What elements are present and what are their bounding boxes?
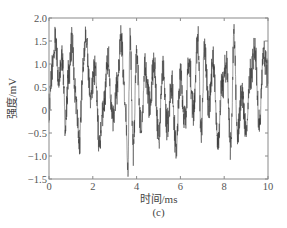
y-tick-label: 0.5 [34, 82, 47, 93]
y-tick-label: −0.5 [28, 128, 47, 139]
y-axis-title: 强度/mV [5, 78, 18, 120]
x-tick-labels: 0246810 [46, 181, 273, 192]
figure-caption: (c) [152, 206, 165, 219]
y-tick-label: 1.0 [34, 59, 47, 70]
y-tick-label: 0 [42, 105, 47, 116]
x-tick-label: 0 [46, 181, 51, 192]
x-tick-label: 2 [90, 181, 95, 192]
y-tick-label: −1.0 [28, 151, 47, 162]
y-tick-labels: −1.5−1.0−0.500.51.01.52.0 [28, 13, 47, 185]
time-series-chart: 0246810 −1.5−1.0−0.500.51.01.52.0 时间/ms … [0, 0, 287, 228]
signal-line [49, 24, 268, 177]
x-axis-title: 时间/ms [140, 193, 178, 205]
y-tick-label: −1.5 [28, 174, 47, 185]
y-tick-label: 1.5 [34, 36, 47, 47]
signal-path [49, 24, 268, 177]
x-tick-label: 6 [178, 181, 183, 192]
x-tick-label: 8 [222, 181, 227, 192]
y-tick-label: 2.0 [34, 13, 47, 24]
x-tick-label: 10 [263, 181, 274, 192]
x-tick-label: 4 [134, 181, 140, 192]
